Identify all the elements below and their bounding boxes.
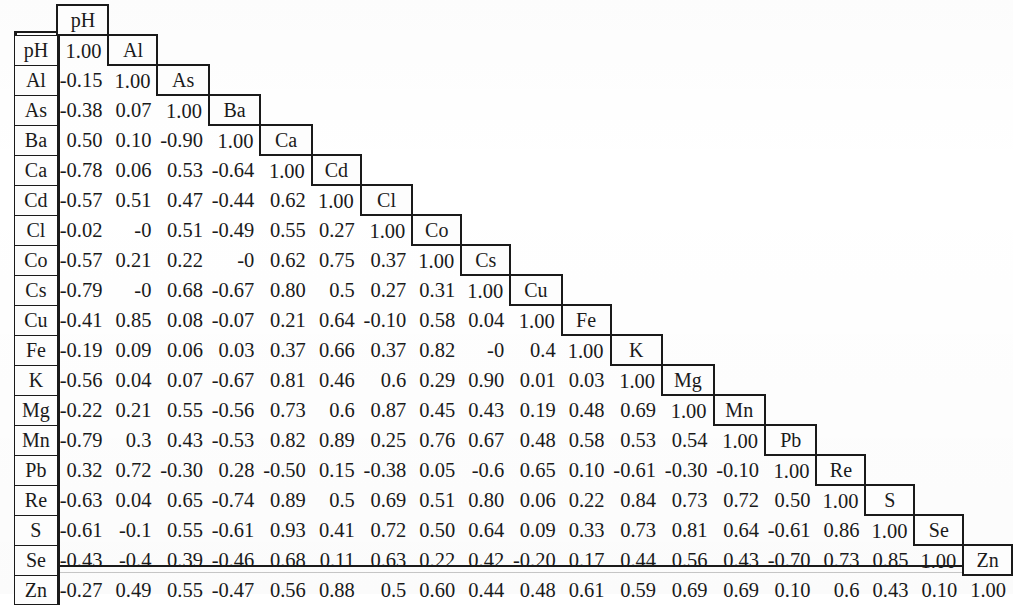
cell-Mn-Cs: 0.67 (461, 425, 510, 455)
cell-S-Co: 0.50 (412, 515, 461, 545)
spacer-cell (611, 185, 662, 215)
cell-Cu-As: 0.08 (157, 305, 208, 335)
spacer-cell (562, 275, 611, 305)
cell-Cl-Ba: -0.49 (209, 215, 260, 245)
spacer-cell (765, 65, 816, 95)
matrix-row: K-0.560.040.07-0.670.810.460.60.290.900.… (15, 365, 1013, 395)
cell-Mn-Mg: 0.54 (662, 425, 713, 455)
diagonal-header-Cu: Cu (510, 275, 561, 305)
cell-Se-Se: 1.00 (914, 545, 963, 575)
spacer-cell (510, 245, 561, 275)
cell-Zn-Ca: 0.56 (260, 575, 311, 604)
cell-Pb-Fe: 0.10 (562, 455, 611, 485)
row-label-S: S (15, 515, 58, 545)
spacer-cell (865, 65, 914, 95)
cell-Se-K: 0.44 (611, 545, 662, 575)
spacer-cell (562, 215, 611, 245)
cell-Mg-Cs: 0.43 (461, 395, 510, 425)
cell-Mg-Ba: -0.56 (209, 395, 260, 425)
spacer-cell (714, 365, 765, 395)
cell-Al-Al: 1.00 (108, 65, 157, 95)
cell-S-Ba: -0.61 (209, 515, 260, 545)
row-label-Cd: Cd (15, 185, 58, 215)
spacer-cell (914, 485, 963, 515)
spacer-cell (816, 155, 865, 185)
cell-Zn-Al: 0.49 (108, 575, 157, 604)
spacer-cell (865, 365, 914, 395)
cell-S-Mg: 0.81 (662, 515, 713, 545)
spacer-cell (611, 35, 662, 65)
cell-Mg-Al: 0.21 (108, 395, 157, 425)
cell-Cd-Ca: 0.62 (260, 185, 311, 215)
matrix-row: Al-0.151.00As (15, 65, 1013, 95)
spacer-cell (562, 185, 611, 215)
cell-Re-Cu: 0.06 (510, 485, 561, 515)
cell-Mg-Mg: 1.00 (662, 395, 713, 425)
spacer-cell (361, 155, 412, 185)
cell-Ca-Ca: 1.00 (260, 155, 311, 185)
spacer-cell (963, 155, 1012, 185)
spacer-cell (865, 305, 914, 335)
cell-S-Ca: 0.93 (260, 515, 311, 545)
spacer-cell (765, 35, 816, 65)
cell-Ba-As: -0.90 (157, 125, 208, 155)
spacer-cell (562, 5, 611, 35)
cell-Mg-As: 0.55 (157, 395, 208, 425)
cell-Cd-Cd: 1.00 (312, 185, 361, 215)
spacer-cell (865, 5, 914, 35)
cell-Cl-Cl: 1.00 (361, 215, 412, 245)
spacer-cell (461, 185, 510, 215)
cell-Pb-Ca: -0.50 (260, 455, 311, 485)
cell-Fe-Cd: 0.66 (312, 335, 361, 365)
diagonal-header-Re: Re (816, 455, 865, 485)
cell-Re-Fe: 0.22 (562, 485, 611, 515)
matrix-row: Ca-0.780.060.53-0.641.00Cd (15, 155, 1013, 185)
cell-Se-Co: 0.22 (412, 545, 461, 575)
spacer-cell (412, 125, 461, 155)
cell-Se-Re: 0.73 (816, 545, 865, 575)
cell-Zn-Co: 0.60 (412, 575, 461, 604)
spacer-cell (914, 455, 963, 485)
cell-K-Fe: 0.03 (562, 365, 611, 395)
cell-Fe-Cu: 0.4 (510, 335, 561, 365)
cell-Zn-Se: 0.10 (914, 575, 963, 604)
cell-Zn-Fe: 0.61 (562, 575, 611, 604)
spacer-cell (510, 155, 561, 185)
spacer-cell (963, 365, 1012, 395)
row-label-Ba: Ba (15, 125, 58, 155)
spacer-cell (209, 5, 260, 35)
spacer-cell (865, 245, 914, 275)
cell-Re-pH: -0.63 (57, 485, 108, 515)
cell-Mn-Mn: 1.00 (714, 425, 765, 455)
cell-Ca-As: 0.53 (157, 155, 208, 185)
spacer-cell (157, 5, 208, 35)
spacer-cell (963, 185, 1012, 215)
matrix-row: Mg-0.220.210.55-0.560.730.60.870.450.430… (15, 395, 1013, 425)
spacer-cell (963, 425, 1012, 455)
spacer-cell (914, 365, 963, 395)
cell-Cs-Cs: 1.00 (461, 275, 510, 305)
spacer-cell (562, 155, 611, 185)
spacer-cell (510, 65, 561, 95)
cell-Re-Co: 0.51 (412, 485, 461, 515)
cell-Cd-As: 0.47 (157, 185, 208, 215)
diagonal-header-Cd: Cd (312, 155, 361, 185)
matrix-row: Cd-0.570.510.47-0.440.621.00Cl (15, 185, 1013, 215)
cell-S-Cl: 0.72 (361, 515, 412, 545)
cell-Pb-K: -0.61 (611, 455, 662, 485)
cell-Fe-As: 0.06 (157, 335, 208, 365)
cell-Zn-K: 0.59 (611, 575, 662, 604)
spacer-cell (865, 215, 914, 245)
cell-Cs-Cl: 0.27 (361, 275, 412, 305)
cell-Co-Ca: 0.62 (260, 245, 311, 275)
spacer-cell (312, 95, 361, 125)
spacer-cell (865, 455, 914, 485)
cell-Re-As: 0.65 (157, 485, 208, 515)
spacer-cell (714, 305, 765, 335)
spacer-cell (963, 215, 1012, 245)
cell-S-S: 1.00 (865, 515, 914, 545)
spacer-cell (714, 155, 765, 185)
cell-Zn-pH: -0.27 (57, 575, 108, 604)
cell-Cd-pH: -0.57 (57, 185, 108, 215)
cell-S-As: 0.55 (157, 515, 208, 545)
